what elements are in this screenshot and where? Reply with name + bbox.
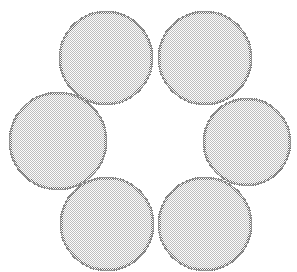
- circle-bottom-right: [158, 177, 252, 271]
- figure-canvas: [0, 0, 297, 272]
- circle-top-right: [158, 11, 252, 105]
- circle-mid-left: [9, 92, 107, 190]
- circle-packing-diagram: [0, 0, 297, 272]
- circle-bottom-left: [60, 177, 154, 271]
- circle-mid-right: [203, 98, 291, 186]
- circle-top-left: [59, 11, 153, 105]
